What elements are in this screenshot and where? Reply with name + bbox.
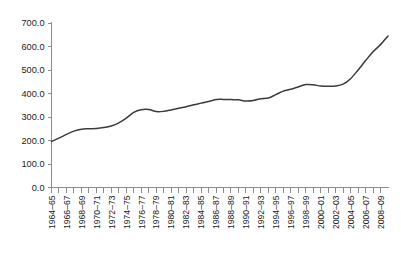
y-tick-label: 400.0 [22, 89, 45, 99]
x-tick-label: 1972–73 [107, 195, 117, 229]
x-tick-label: 1980–81 [166, 195, 176, 229]
y-tick-label: 200.0 [22, 136, 45, 146]
y-tick-label: 600.0 [22, 42, 45, 52]
x-tick-label: 1984–85 [196, 195, 206, 229]
x-tick-label: 1986–87 [211, 195, 221, 229]
x-tick-label: 1988–89 [226, 195, 236, 229]
x-tick-label: 1976–77 [137, 195, 147, 229]
y-tick-label: 700.0 [22, 18, 45, 28]
x-tick-label: 2008–09 [376, 195, 386, 229]
x-tick-label: 1966–67 [62, 195, 72, 229]
x-tick-label: 1970–71 [92, 195, 102, 229]
x-tick-label: 1998–99 [301, 195, 311, 229]
x-tick-label: 2002–03 [331, 195, 341, 229]
x-tick-label: 1990–91 [241, 195, 251, 229]
chart-canvas: 700.0600.0500.0400.0300.0200.0100.00.0 1… [0, 0, 401, 253]
y-tick-label: 500.0 [22, 65, 45, 75]
y-tick-label: 0.0 [32, 183, 45, 193]
x-tick-label: 2006–07 [361, 195, 371, 229]
x-tick-label: 1974–75 [122, 195, 132, 229]
line-chart-figure: 700.0600.0500.0400.0300.0200.0100.00.0 1… [0, 0, 401, 253]
x-tick-label: 1964–65 [47, 195, 57, 229]
x-tick-label: 1982–83 [181, 195, 191, 229]
x-tick-label: 1968–69 [77, 195, 87, 229]
x-tick-label: 1992–93 [256, 195, 266, 229]
x-tick-label: 1996–97 [286, 195, 296, 229]
y-tick-label: 100.0 [22, 159, 45, 169]
y-tick-label: 300.0 [22, 112, 45, 122]
x-tick-label: 1978–79 [151, 195, 161, 229]
x-tick-label: 1994–95 [271, 195, 281, 229]
x-tick-label: 2000–01 [316, 195, 326, 229]
x-tick-label: 2004–05 [346, 195, 356, 229]
